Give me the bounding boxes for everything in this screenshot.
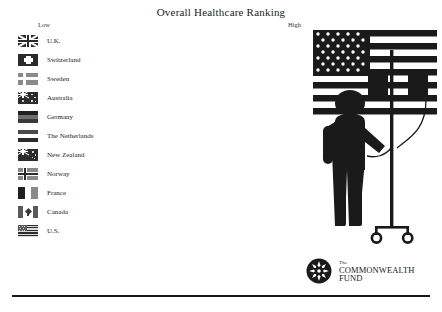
- ranking-country-label: The Netherlands: [47, 132, 93, 140]
- ranking-row: Norway: [18, 164, 198, 183]
- ranking-row: Sweden: [18, 69, 198, 88]
- pole-wheels: [372, 226, 412, 243]
- bottom-divider: [12, 295, 430, 297]
- flag-germany-icon: [18, 111, 38, 123]
- ranking-row: Canada: [18, 202, 198, 221]
- ranking-row: New Zealand: [18, 145, 198, 164]
- ranking-country-label: U.S.: [47, 227, 59, 235]
- ranking-country-label: Australia: [47, 94, 73, 102]
- starburst-emblem-icon: [306, 258, 332, 284]
- commonwealth-fund-logo: The COMMONWEALTH FUND: [306, 258, 415, 284]
- ranking-country-label: Sweden: [47, 75, 69, 83]
- ranking-country-label: U.K.: [47, 37, 61, 45]
- iv-bag-right: [408, 71, 428, 101]
- ranking-row: U.S.: [18, 221, 198, 240]
- logo-line-fund: FUND: [339, 274, 415, 283]
- ranking-row: Germany: [18, 107, 198, 126]
- ranking-row: Switzerland: [18, 50, 198, 69]
- iv-pole: [390, 50, 393, 228]
- scale-high-label: High: [288, 21, 301, 28]
- flag-australia-icon: [18, 92, 38, 104]
- ranking-country-label: New Zealand: [47, 151, 85, 159]
- ranking-row: Australia: [18, 88, 198, 107]
- flag-netherlands-icon: [18, 130, 38, 142]
- patient-with-iv-pole-illustration: [313, 30, 437, 245]
- flag-switzerland-icon: [18, 54, 38, 66]
- ranking-row: The Netherlands: [18, 126, 198, 145]
- flag-norway-icon: [18, 168, 38, 180]
- ranking-country-label: Switzerland: [47, 56, 80, 64]
- logo-line-the: The: [339, 260, 415, 265]
- flag-new-zealand-icon: [18, 149, 38, 161]
- flag-canada-icon: [18, 206, 38, 218]
- logo-wordmark: The COMMONWEALTH FUND: [339, 260, 415, 283]
- slide-canvas: Overall Healthcare Ranking Low High U.K.: [0, 0, 442, 312]
- ranking-country-label: France: [47, 189, 66, 197]
- flag-us-icon: [18, 225, 38, 237]
- page-title: Overall Healthcare Ranking: [0, 6, 442, 18]
- ranking-country-label: Canada: [47, 208, 68, 216]
- flag-uk-icon: [18, 35, 38, 47]
- ranking-country-label: Norway: [47, 170, 70, 178]
- scale-low-label: Low: [38, 21, 50, 28]
- iv-bag-left: [368, 71, 388, 101]
- ranking-row: France: [18, 183, 198, 202]
- us-flag-backdrop: [313, 30, 437, 118]
- ranking-list: U.K. Switzerland Sweden: [18, 31, 198, 240]
- flag-france-icon: [18, 187, 38, 199]
- flag-sweden-icon: [18, 73, 38, 85]
- ranking-row: U.K.: [18, 31, 198, 50]
- ranking-country-label: Germany: [47, 113, 73, 121]
